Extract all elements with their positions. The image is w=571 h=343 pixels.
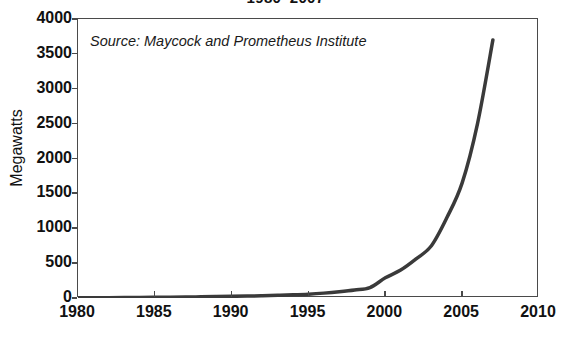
y-tick-mark (72, 192, 77, 194)
y-tick-mark (72, 53, 77, 55)
x-tick-mark (308, 291, 310, 297)
y-tick-mark (72, 262, 77, 264)
data-line-svg (78, 19, 539, 298)
y-tick-mark (72, 297, 77, 299)
x-tick-label: 2000 (349, 303, 419, 321)
y-tick-mark (72, 88, 77, 90)
x-tick-mark (231, 291, 233, 297)
x-tick-label: 2010 (503, 303, 571, 321)
plot-area: Source: Maycock and Prometheus Institute (77, 18, 538, 297)
y-tick-mark (72, 227, 77, 229)
x-tick-label: 1985 (119, 303, 189, 321)
x-tick-label: 2005 (426, 303, 496, 321)
y-tick-mark (72, 18, 77, 20)
x-tick-label: 1995 (273, 303, 343, 321)
y-tick-mark (72, 158, 77, 160)
x-tick-mark (461, 291, 463, 297)
x-tick-label: 1990 (196, 303, 266, 321)
chart-figure: 1980–2007 Megawatts 05001000150020002500… (0, 0, 571, 343)
series-line-path (78, 40, 493, 298)
x-tick-mark (384, 291, 386, 297)
x-tick-mark (154, 291, 156, 297)
y-tick-mark (72, 123, 77, 125)
x-tick-label: 1980 (42, 303, 112, 321)
